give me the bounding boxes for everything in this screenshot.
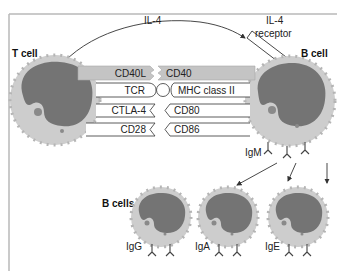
t-cell-label: T cell [12, 48, 38, 59]
interaction-row-cd28-cd86: CD28 CD86 [86, 123, 250, 136]
mhc-class-ii-label: MHC class II [178, 85, 235, 96]
interaction-row-tcr-mhc: TCR MHC class II [96, 83, 250, 97]
b-cell [245, 56, 335, 158]
igg-label: IgG [126, 241, 142, 252]
cd40-label: CD40 [166, 68, 192, 79]
cd80-label: CD80 [174, 105, 200, 116]
ctla4-label: CTLA-4 [112, 105, 147, 116]
interaction-row-ctla4-cd80: CTLA-4 CD80 [96, 104, 250, 117]
interaction-row-cd40: CD40L CD40 [78, 66, 255, 80]
il4-arrow [64, 21, 245, 62]
class-switch-arrows [237, 163, 327, 185]
il4-label: IL-4 [144, 15, 162, 26]
b-cells-label: B cells [102, 198, 135, 209]
cd28-label: CD28 [120, 124, 146, 135]
tcr-label: TCR [124, 85, 145, 96]
b-cell-label: B cell [301, 48, 328, 59]
ige-label: IgE [265, 241, 280, 252]
igm-label: IgM [245, 147, 262, 158]
il4-receptor-label-line2: receptor [255, 28, 292, 39]
il4-receptor-label-line1: IL-4 [266, 15, 284, 26]
cd86-label: CD86 [174, 124, 200, 135]
cd40l-label: CD40L [115, 68, 147, 79]
iga-label: IgA [195, 241, 210, 252]
t-cell-b-cell-interaction-diagram: IL-4 IL-4 receptor T cell B cell IgM CD4… [0, 0, 337, 271]
